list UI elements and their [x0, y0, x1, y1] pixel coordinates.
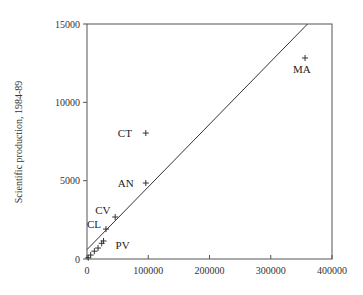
- point-label: CL: [87, 218, 101, 230]
- x-tick-label: 400000: [317, 265, 347, 276]
- scatter-chart: 0100000200000300000400000050001000015000…: [0, 0, 363, 295]
- data-points: MACTANCVCLPV: [85, 55, 311, 261]
- data-point: CT: [118, 127, 149, 139]
- x-tick-label: 200000: [195, 265, 225, 276]
- data-point: AN: [118, 177, 149, 189]
- x-tick-label: 300000: [256, 265, 286, 276]
- y-tick-label: 10000: [55, 97, 80, 108]
- y-tick-label: 5000: [60, 175, 80, 186]
- point-label: MA: [293, 63, 311, 75]
- plot-frame: [87, 24, 332, 259]
- y-tick-label: 0: [75, 254, 80, 265]
- point-label: CT: [118, 127, 132, 139]
- y-tick-label: 15000: [55, 19, 80, 30]
- x-tick-label: 100000: [133, 265, 163, 276]
- point-label: PV: [116, 239, 130, 251]
- data-point: MA: [293, 55, 311, 75]
- data-point: PV: [101, 238, 130, 251]
- point-label: CV: [95, 204, 110, 216]
- data-point: [91, 248, 97, 254]
- point-label: AN: [118, 177, 134, 189]
- data-point: [95, 245, 101, 251]
- data-point: CL: [87, 218, 109, 232]
- x-tick-label: 0: [85, 265, 90, 276]
- y-axis-label: Scientific production, 1984-89: [13, 81, 24, 203]
